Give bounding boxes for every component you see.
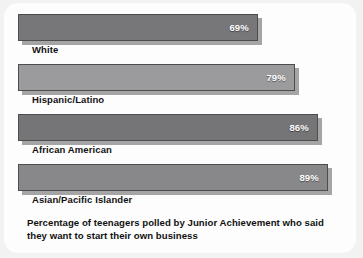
bar-value-african-american: 86% xyxy=(289,122,309,133)
bar-row: 89% xyxy=(18,164,348,191)
bar-white: 69% xyxy=(18,14,258,41)
bar-row: 79% xyxy=(18,64,348,91)
bar-hispanic-latino: 79% xyxy=(18,64,295,91)
bar-value-hispanic-latino: 79% xyxy=(266,72,286,83)
bar-row: 69% xyxy=(18,14,348,41)
bar-group-white: 69% White xyxy=(18,14,348,41)
bar-african-american: 86% xyxy=(18,114,318,141)
bar-chart: 69% White 79% Hispanic/Latino 86% xyxy=(0,0,363,258)
bar-label-hispanic-latino: Hispanic/Latino xyxy=(32,94,104,105)
bar-group-hispanic-latino: 79% Hispanic/Latino xyxy=(18,64,348,91)
bar-group-african-american: 86% African American xyxy=(18,114,348,141)
bar-label-african-american: African American xyxy=(32,144,112,155)
bar-asian-pacific-islander: 89% xyxy=(18,164,328,191)
bar-value-white: 69% xyxy=(229,22,249,33)
chart-caption: Percentage of teenagers polled by Junior… xyxy=(27,216,339,242)
bar-value-asian-pacific-islander: 89% xyxy=(299,172,319,183)
bar-label-asian-pacific-islander: Asian/Pacific Islander xyxy=(32,194,132,205)
bar-group-asian-pacific-islander: 89% Asian/Pacific Islander xyxy=(18,164,348,191)
chart-screenshot: 69% White 79% Hispanic/Latino 86% xyxy=(0,0,363,258)
bar-label-white: White xyxy=(32,44,58,55)
bar-row: 86% xyxy=(18,114,348,141)
